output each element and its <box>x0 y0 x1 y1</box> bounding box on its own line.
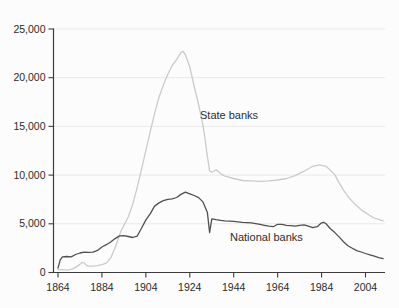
axis-frame <box>54 29 386 273</box>
national-banks-line <box>58 192 383 268</box>
data-series-group <box>58 51 383 270</box>
x-tick-label: 1904 <box>134 281 158 293</box>
y-tick-label: 15,000 <box>13 120 45 132</box>
x-tick-label: 1984 <box>310 281 334 293</box>
x-tick-label: 2004 <box>354 281 378 293</box>
y-tick-label: 0 <box>40 266 46 278</box>
chart-figure: 05,00010,00015,00020,00025,0001864188419… <box>0 0 399 308</box>
y-tick-label: 5,000 <box>19 217 45 229</box>
national-banks-series-label: National banks <box>230 231 303 243</box>
y-tick-label: 20,000 <box>13 71 45 83</box>
y-tick-label: 10,000 <box>13 169 45 181</box>
state-banks-line <box>58 51 383 270</box>
state-banks-series-label: State banks <box>200 109 259 121</box>
banks-line-chart: 05,00010,00015,00020,00025,0001864188419… <box>0 0 399 308</box>
x-tick-label: 1864 <box>46 281 70 293</box>
x-tick-label: 1924 <box>178 281 202 293</box>
y-tick-label: 25,000 <box>13 23 45 35</box>
x-tick-label: 1944 <box>222 281 246 293</box>
axes-group <box>54 29 386 273</box>
x-tick-label: 1964 <box>266 281 290 293</box>
gridlines-group <box>54 29 386 224</box>
axis-labels-group: 05,00010,00015,00020,00025,0001864188419… <box>13 23 377 294</box>
x-tick-label: 1884 <box>90 281 114 293</box>
